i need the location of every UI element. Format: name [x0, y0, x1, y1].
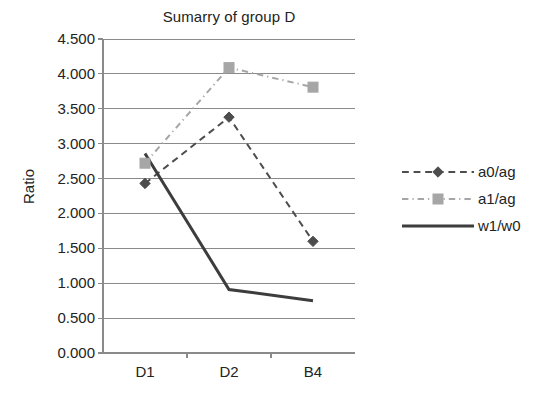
- data-point-marker: [140, 158, 150, 168]
- chart-container: Sumarry of group D Ratio 0.0000.5001.000…: [0, 0, 557, 406]
- data-point-marker: [308, 82, 318, 92]
- legend-marker-icon: [400, 216, 476, 236]
- legend-item[interactable]: w1/w0: [400, 212, 550, 239]
- data-point-marker: [224, 63, 234, 73]
- legend-item[interactable]: a0/ag: [400, 158, 550, 185]
- legend-marker-icon: [400, 189, 476, 209]
- series-lines: [145, 68, 313, 301]
- legend-label: w1/w0: [476, 217, 521, 234]
- series-markers: [140, 63, 318, 247]
- axis-ticks: [98, 39, 271, 358]
- series-line-w1-w0: [145, 153, 313, 300]
- legend-label: a1/ag: [476, 190, 516, 207]
- data-point-marker: [224, 112, 234, 122]
- data-point-marker: [308, 236, 318, 246]
- legend-label: a0/ag: [476, 163, 516, 180]
- legend-item[interactable]: a1/ag: [400, 185, 550, 212]
- legend-marker-icon: [400, 162, 476, 182]
- legend: a0/aga1/agw1/w0: [400, 158, 550, 239]
